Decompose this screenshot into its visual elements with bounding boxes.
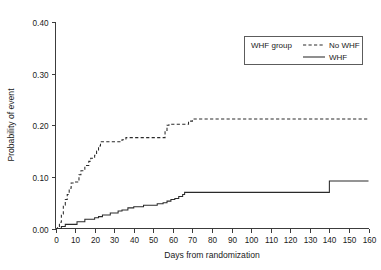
x-tick-label-90: 90	[228, 236, 238, 245]
legend-label-no-whf: No WHF	[329, 41, 360, 50]
y-axis-title: Probability of event	[6, 88, 16, 162]
x-tick-label-120: 120	[284, 236, 298, 245]
x-tick-label-80: 80	[208, 236, 218, 245]
x-tick-label-40: 40	[130, 236, 140, 245]
x-tick-label-130: 130	[304, 236, 318, 245]
x-tick-label-50: 50	[149, 236, 159, 245]
x-tick-label-30: 30	[110, 236, 120, 245]
y-tick-label-0.30: 0.30	[33, 71, 49, 80]
axes-group	[56, 22, 369, 229]
chart-legend: WHF group No WHF WHF	[245, 37, 363, 65]
x-tick-label-110: 110	[265, 236, 278, 245]
chart-container: 0102030405060708090100110120130140150160…	[0, 0, 381, 270]
y-tick-label-0.40: 0.40	[33, 19, 49, 28]
x-axis-tick-labels: 0102030405060708090100110120130140150160	[54, 236, 377, 245]
y-tick-label-0.20: 0.20	[33, 122, 49, 131]
y-tick-label-0.10: 0.10	[33, 174, 49, 183]
x-tick-label-140: 140	[323, 236, 337, 245]
legend-label-whf: WHF	[329, 53, 347, 62]
x-tick-label-20: 20	[91, 236, 101, 245]
y-axis-tick-labels: 0.000.100.200.300.40	[33, 19, 49, 235]
x-tick-label-150: 150	[343, 236, 357, 245]
data-series-group	[56, 119, 369, 228]
x-axis-title: Days from randomization	[164, 250, 260, 260]
x-tick-label-160: 160	[363, 236, 377, 245]
x-tick-label-70: 70	[188, 236, 198, 245]
x-axis-ticks	[57, 229, 370, 233]
series-whf	[56, 181, 369, 228]
y-axis-ticks	[52, 23, 56, 230]
x-tick-label-10: 10	[71, 236, 81, 245]
x-tick-label-100: 100	[245, 236, 259, 245]
km-curve-chart: 0102030405060708090100110120130140150160…	[0, 0, 381, 270]
series-no-whf	[56, 119, 369, 228]
x-tick-label-0: 0	[54, 236, 59, 245]
legend-title: WHF group	[251, 41, 292, 50]
x-tick-label-60: 60	[169, 236, 179, 245]
y-tick-label-0.00: 0.00	[33, 226, 49, 235]
